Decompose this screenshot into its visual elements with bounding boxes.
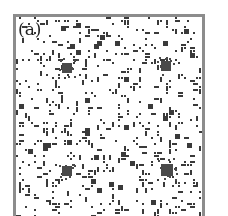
lattice-scatter-plot (16, 17, 202, 216)
lattice-panel: (a) (13, 14, 205, 216)
panel-label: (a) (18, 19, 41, 39)
